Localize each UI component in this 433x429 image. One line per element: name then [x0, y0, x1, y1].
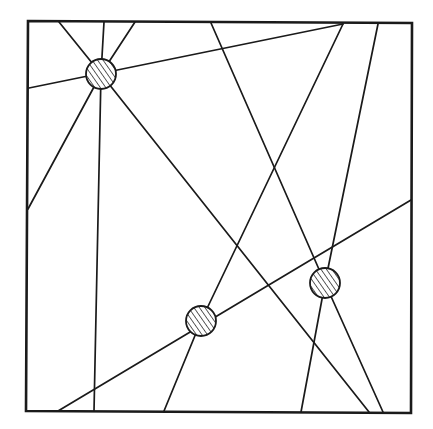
hatched-circle-node-b	[186, 306, 216, 336]
square-frame	[26, 21, 412, 413]
hatched-circle-node-c	[310, 268, 340, 298]
line-segment	[94, 74, 101, 411]
line-segment	[29, 24, 343, 88]
line-segment	[28, 74, 101, 209]
line-segment	[211, 23, 325, 283]
geometric-diagram	[0, 0, 433, 429]
line-segment	[325, 24, 378, 283]
line-segment	[58, 200, 411, 411]
lines-group	[28, 22, 411, 412]
line-segment	[301, 283, 325, 412]
hatched-circle-node-a	[86, 59, 116, 89]
